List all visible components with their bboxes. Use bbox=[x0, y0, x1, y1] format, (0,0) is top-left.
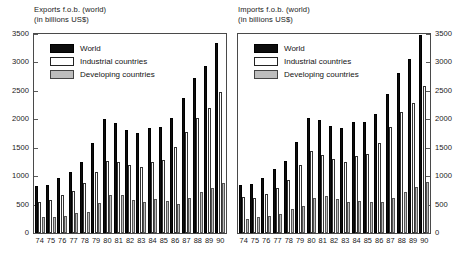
y-tick-mark bbox=[426, 233, 430, 234]
y-tick-mark bbox=[34, 148, 38, 149]
bar-ind bbox=[276, 188, 279, 233]
bar-dev bbox=[370, 202, 373, 233]
y-tick-mark bbox=[34, 91, 38, 92]
y-tick-label: 1000 bbox=[435, 172, 452, 180]
bar-ind bbox=[106, 161, 109, 233]
bar-world bbox=[69, 172, 72, 233]
y-tick-mark bbox=[426, 62, 430, 63]
bar-dev bbox=[132, 200, 135, 233]
chart-title-imports: Imports f.o.b. (world) (in billions US$) bbox=[238, 5, 310, 25]
bar-ind bbox=[61, 195, 64, 233]
bar-ind bbox=[151, 162, 154, 233]
bar-world bbox=[182, 98, 185, 233]
x-tick-label: 90 bbox=[417, 236, 431, 245]
bar-world bbox=[35, 186, 38, 233]
legend-label: Developing countries bbox=[284, 69, 359, 80]
bar-world bbox=[159, 127, 162, 233]
bar-ind bbox=[162, 160, 165, 233]
y-tick-mark bbox=[34, 233, 38, 234]
legend-item-ind: Industrial countries bbox=[50, 56, 200, 68]
bar-dev bbox=[121, 195, 124, 233]
bar-dev bbox=[313, 198, 316, 233]
legend-label: Developing countries bbox=[80, 69, 155, 80]
bar-ind bbox=[49, 200, 52, 233]
y-tick-mark bbox=[34, 119, 38, 120]
bar-ind bbox=[366, 154, 369, 233]
bar-dev bbox=[154, 199, 157, 233]
bar-group bbox=[419, 34, 429, 233]
bar-group bbox=[204, 34, 214, 233]
y-tick-label: 1000 bbox=[0, 172, 29, 180]
bar-ind bbox=[72, 191, 75, 233]
legend-swatch-ind bbox=[50, 57, 74, 66]
bar-dev bbox=[291, 209, 294, 233]
bar-dev bbox=[188, 198, 191, 233]
bar-world bbox=[125, 130, 128, 233]
bar-ind bbox=[185, 132, 188, 233]
bar-dev bbox=[75, 213, 78, 233]
y-tick-mark bbox=[34, 34, 38, 35]
bar-ind bbox=[242, 197, 245, 233]
bar-group bbox=[215, 34, 225, 233]
bar-world bbox=[295, 142, 298, 233]
bar-world bbox=[419, 35, 422, 233]
bar-world bbox=[103, 119, 106, 233]
bar-dev bbox=[64, 216, 67, 233]
bar-world bbox=[318, 120, 321, 233]
y-tick-mark bbox=[34, 62, 38, 63]
bar-ind bbox=[95, 172, 98, 233]
bar-ind bbox=[253, 198, 256, 233]
bar-ind bbox=[412, 103, 415, 233]
bar-world bbox=[374, 114, 377, 233]
bar-world bbox=[80, 162, 83, 233]
bar-world bbox=[307, 118, 310, 233]
bar-ind bbox=[38, 202, 41, 233]
bar-dev bbox=[257, 217, 260, 233]
chart-title-line1: Imports f.o.b. (world) bbox=[238, 5, 310, 15]
bar-ind bbox=[310, 151, 313, 233]
bar-ind bbox=[117, 162, 120, 233]
y-tick-label: 3000 bbox=[0, 58, 29, 66]
legend-label: Industrial countries bbox=[80, 56, 147, 67]
y-tick-mark bbox=[426, 119, 430, 120]
x-tick-label: 90 bbox=[213, 236, 227, 245]
bar-ind bbox=[128, 165, 131, 233]
y-tick-label: 2000 bbox=[435, 115, 452, 123]
bar-ind bbox=[378, 143, 381, 233]
bar-ind bbox=[83, 183, 86, 233]
bar-dev bbox=[325, 196, 328, 233]
legend-label: Industrial countries bbox=[284, 56, 351, 67]
y-tick-mark bbox=[426, 148, 430, 149]
bar-world bbox=[114, 123, 117, 233]
legend-exports: WorldIndustrial countriesDeveloping coun… bbox=[50, 43, 200, 83]
bar-world bbox=[46, 185, 49, 233]
y-tick-label: 500 bbox=[435, 201, 448, 209]
bar-world bbox=[340, 128, 343, 233]
bar-dev bbox=[404, 192, 407, 234]
y-tick-label: 3000 bbox=[435, 58, 452, 66]
bar-ind bbox=[400, 112, 403, 233]
bar-world bbox=[193, 78, 196, 233]
bar-dev bbox=[415, 187, 418, 233]
bar-ind bbox=[299, 165, 302, 233]
legend-swatch-ind bbox=[254, 57, 278, 66]
bar-dev bbox=[426, 182, 429, 233]
bar-world bbox=[136, 133, 139, 233]
legend-swatch-world bbox=[254, 44, 278, 53]
chart-title-line2: (in billions US$) bbox=[34, 15, 106, 25]
bar-dev bbox=[98, 203, 101, 233]
chart-title-line1: Exports f.o.b. (world) bbox=[34, 5, 106, 15]
bar-ind bbox=[196, 118, 199, 233]
legend-item-ind: Industrial countries bbox=[254, 56, 404, 68]
y-tick-label: 2000 bbox=[0, 115, 29, 123]
bar-dev bbox=[109, 195, 112, 233]
y-tick-label: 0 bbox=[0, 229, 29, 237]
bar-dev bbox=[392, 198, 395, 233]
bar-ind bbox=[344, 162, 347, 233]
bar-ind bbox=[219, 92, 222, 233]
bar-group bbox=[239, 34, 249, 233]
bar-world bbox=[329, 126, 332, 233]
bar-ind bbox=[265, 194, 268, 233]
bar-ind bbox=[321, 155, 324, 233]
y-tick-mark bbox=[426, 91, 430, 92]
